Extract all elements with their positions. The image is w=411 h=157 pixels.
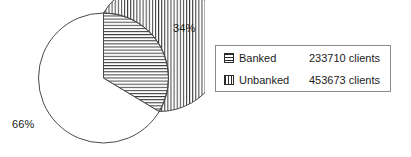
legend-value-banked: 233710 clients (309, 51, 380, 66)
legend-item-banked: Banked 233710 clients (216, 47, 390, 70)
chart-legend: Banked 233710 clients Unbanked 453673 cl… (215, 45, 391, 92)
legend-swatch-vertical-hatch-icon (224, 75, 234, 85)
pie-label-unbanked-percent: 66% (12, 119, 34, 130)
pie-label-banked-percent: 34% (173, 23, 195, 34)
legend-value-unbanked: 453673 clients (309, 73, 380, 88)
pie-chart: 34% 66% (0, 0, 205, 157)
legend-item-unbanked: Unbanked 453673 clients (216, 69, 390, 92)
legend-label-banked: Banked (239, 51, 276, 66)
legend-label-unbanked: Unbanked (239, 73, 289, 88)
legend-swatch-horizontal-hatch-icon (224, 53, 234, 63)
pie-chart-screenshot: 34% 66% Banked 233710 clients Unbanked 4… (0, 0, 411, 157)
